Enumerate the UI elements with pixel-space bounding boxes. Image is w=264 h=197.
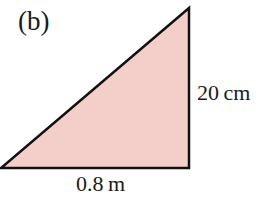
height-dimension-label: 20 cm [197, 82, 250, 104]
base-dimension-label: 0.8 m [76, 173, 125, 195]
part-label: (b) [18, 8, 49, 35]
